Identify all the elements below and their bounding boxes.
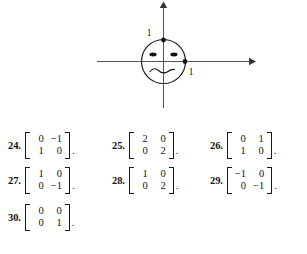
exercise-item-25[interactable]: 25. 2 0 0 2 . xyxy=(112,128,178,162)
matrix-cell: 0 xyxy=(49,145,64,158)
matrix-cell: 0 xyxy=(31,205,49,218)
coordinate-plane-svg: 1 1 xyxy=(0,0,307,115)
right-eye-icon xyxy=(170,53,177,57)
matrix-cell: 1 xyxy=(251,133,266,146)
x-axis-tick-label: 1 xyxy=(189,67,194,77)
matrix-30: 0 0 0 1 xyxy=(25,204,70,231)
matrix-cell: 0 xyxy=(49,205,64,218)
exercise-punctuation: . xyxy=(174,180,179,197)
matrix-cell: 0 xyxy=(135,145,153,158)
matrix-28: 1 0 0 2 xyxy=(129,167,174,194)
matrix-cell: 1 xyxy=(31,145,49,158)
exercise-punctuation: . xyxy=(174,145,179,162)
exercise-item-26[interactable]: 26. 0 1 1 0 . xyxy=(210,128,276,162)
matrix-cell: 1 xyxy=(49,217,64,230)
exercise-item-24[interactable]: 24. 0 −1 1 0 . xyxy=(8,128,75,162)
mouth-wavy-icon xyxy=(150,69,175,73)
exercise-number: 28. xyxy=(112,175,125,186)
exercise-number: 24. xyxy=(8,140,21,151)
y-axis-tick-label: 1 xyxy=(147,28,152,38)
matrix-25: 2 0 0 2 xyxy=(129,132,174,159)
matrix-cell: 0 xyxy=(233,180,251,193)
exercise-punctuation: . xyxy=(70,145,75,162)
matrix-cell: 0 xyxy=(31,133,49,146)
exercise-row: 30. 0 0 0 1 . xyxy=(0,200,307,234)
matrix-cell: 1 xyxy=(233,145,251,158)
exercise-number: 25. xyxy=(112,140,125,151)
matrix-cell: 2 xyxy=(153,180,168,193)
exercise-item-29[interactable]: 29. −1 0 0 −1 . xyxy=(210,163,277,197)
y-axis-arrowhead-icon xyxy=(160,2,167,9)
matrix-27: 1 0 0 −1 xyxy=(25,167,70,194)
exercise-number: 26. xyxy=(210,140,223,151)
matrix-cell: −1 xyxy=(49,180,64,193)
exercise-item-30[interactable]: 30. 0 0 0 1 . xyxy=(8,200,74,234)
matrix-cell: 2 xyxy=(135,133,153,146)
exercise-item-28[interactable]: 28. 1 0 0 2 . xyxy=(112,163,178,197)
x-axis-arrowhead-icon xyxy=(249,58,256,65)
matrix-cell: 0 xyxy=(31,180,49,193)
matrix-cell: 0 xyxy=(153,168,168,181)
exercise-row: 27. 1 0 0 −1 . 28. xyxy=(0,163,307,197)
exercise-number: 27. xyxy=(8,175,21,186)
exercise-item-27[interactable]: 27. 1 0 0 −1 . xyxy=(8,163,75,197)
point-0-1-marker xyxy=(161,38,166,43)
point-1-0-marker xyxy=(183,59,188,64)
matrix-26: 0 1 1 0 xyxy=(227,132,272,159)
matrix-24: 0 −1 1 0 xyxy=(25,132,70,159)
matrix-cell: 1 xyxy=(31,168,49,181)
exercise-punctuation: . xyxy=(70,217,75,234)
exercise-number: 30. xyxy=(8,212,21,223)
matrix-cell: 0 xyxy=(251,145,266,158)
matrix-cell: 0 xyxy=(135,180,153,193)
matrix-cell: 0 xyxy=(251,168,266,181)
matrix-cell: 2 xyxy=(153,145,168,158)
exercise-number: 29. xyxy=(210,175,223,186)
matrix-cell: 1 xyxy=(135,168,153,181)
exercise-row: 24. 0 −1 1 0 . 25. xyxy=(0,128,307,162)
left-eye-icon xyxy=(149,53,156,57)
exercise-punctuation: . xyxy=(70,180,75,197)
matrix-cell: −1 xyxy=(251,180,266,193)
matrix-cell: −1 xyxy=(49,133,64,146)
exercise-punctuation: . xyxy=(272,180,277,197)
matrix-29: −1 0 0 −1 xyxy=(227,167,272,194)
matrix-cell: 0 xyxy=(233,133,251,146)
matrix-cell: −1 xyxy=(233,168,251,181)
exercise-punctuation: . xyxy=(272,145,277,162)
matrix-cell: 0 xyxy=(49,168,64,181)
matrix-cell: 0 xyxy=(153,133,168,146)
matrix-cell: 0 xyxy=(31,217,49,230)
exercise-list: 24. 0 −1 1 0 . 25. xyxy=(0,118,307,254)
figure-smiley-face-diagram: 1 1 xyxy=(0,0,307,115)
